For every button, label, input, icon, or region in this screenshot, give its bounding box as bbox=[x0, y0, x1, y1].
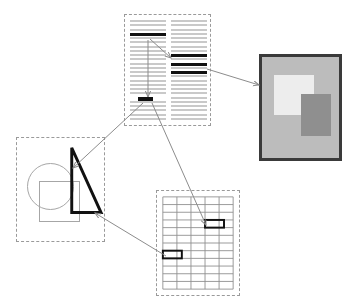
triangle-polygon bbox=[72, 148, 101, 213]
document-text-line bbox=[171, 67, 207, 69]
document-text-line bbox=[130, 109, 166, 111]
document-text-line bbox=[130, 114, 166, 116]
document-text-line bbox=[171, 109, 207, 111]
document-text-line bbox=[171, 80, 207, 82]
document-text-line bbox=[130, 92, 166, 94]
image-dark-region bbox=[301, 94, 331, 136]
document-text-line bbox=[130, 50, 166, 52]
document-text-line bbox=[171, 101, 207, 103]
document-text-line bbox=[130, 46, 166, 48]
document-text-line bbox=[171, 33, 207, 35]
document-text-line bbox=[171, 29, 207, 31]
diagram-canvas bbox=[0, 0, 360, 307]
document-text-line bbox=[130, 63, 166, 65]
document-text-line bbox=[130, 20, 166, 22]
document-text-line bbox=[130, 29, 166, 31]
document-text-line bbox=[171, 58, 207, 60]
document-text-line bbox=[130, 84, 166, 86]
document-text-line bbox=[130, 75, 166, 77]
document-text-line bbox=[171, 50, 207, 52]
document-text-line bbox=[130, 58, 166, 60]
grid-svg bbox=[157, 191, 239, 295]
document-text-line bbox=[171, 92, 207, 94]
document-text-line bbox=[130, 67, 166, 69]
grid-highlighted-cell[interactable] bbox=[163, 251, 182, 259]
document-text-line bbox=[171, 88, 207, 90]
document-text-line bbox=[171, 37, 207, 39]
document-text-line bbox=[171, 114, 207, 116]
document-text-line bbox=[130, 37, 166, 39]
document-text-line bbox=[171, 84, 207, 86]
document-text-line bbox=[171, 97, 207, 99]
document-text-line bbox=[171, 75, 207, 77]
document-text-line bbox=[171, 105, 207, 107]
data-grid-panel[interactable] bbox=[156, 190, 240, 296]
document-text-line bbox=[130, 105, 166, 107]
document-highlighted-line bbox=[171, 54, 207, 57]
document-text-line bbox=[171, 41, 207, 43]
document-text-line bbox=[130, 118, 166, 120]
document-text-line bbox=[130, 71, 166, 73]
document-text-line bbox=[130, 101, 166, 103]
link-arrow bbox=[207, 69, 259, 85]
document-text-line bbox=[130, 54, 166, 56]
document-highlighted-line bbox=[171, 71, 207, 74]
vector-shapes-panel[interactable] bbox=[16, 137, 105, 242]
triangle-shape bbox=[17, 138, 104, 241]
text-document-panel[interactable] bbox=[124, 14, 211, 126]
grid-highlighted-cell[interactable] bbox=[205, 220, 224, 228]
document-highlighted-line bbox=[130, 33, 166, 36]
document-text-line bbox=[171, 24, 207, 26]
document-text-line bbox=[171, 118, 207, 120]
document-text-line bbox=[130, 88, 166, 90]
photo-image-panel[interactable] bbox=[259, 54, 342, 161]
document-text-line bbox=[171, 20, 207, 22]
document-text-line bbox=[130, 24, 166, 26]
document-left-column bbox=[130, 20, 166, 122]
document-text-line bbox=[130, 41, 166, 43]
document-text-line bbox=[171, 46, 207, 48]
document-text-line bbox=[130, 80, 166, 82]
document-right-column bbox=[171, 20, 207, 122]
document-highlighted-line bbox=[171, 63, 207, 66]
